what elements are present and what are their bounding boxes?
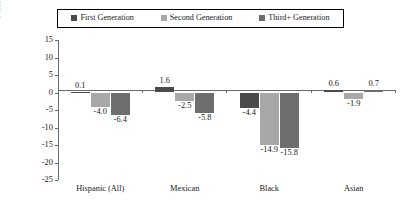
- x-tick: [395, 90, 396, 93]
- bar: [364, 90, 383, 92]
- bar-value-label: 0.1: [63, 82, 97, 90]
- y-tick-label: 0: [49, 88, 53, 96]
- x-axis-category-label: Asian: [312, 185, 397, 193]
- legend-label-second-generation: Second Generation: [170, 14, 233, 22]
- bar-group: 0.1-4.0-6.4Hispanic (All): [58, 40, 143, 180]
- x-axis-category-label: Black: [227, 185, 312, 193]
- bar-chart: First Generation Second Generation Third…: [0, 0, 411, 209]
- bar: [280, 93, 299, 148]
- bar-value-label: -15.8: [272, 149, 306, 157]
- x-axis-category-label: Mexican: [143, 185, 228, 193]
- y-tick-label: -20: [42, 158, 53, 166]
- bar-group: 1.6-2.5-5.8Mexican: [143, 40, 228, 180]
- y-tick-label: -10: [42, 123, 53, 131]
- y-tick: [55, 180, 58, 181]
- bar-value-label: 0.6: [317, 80, 351, 88]
- bar: [240, 93, 259, 108]
- y-axis-title: Percentage Point Differential: [0, 0, 2, 40]
- bar: [71, 92, 90, 93]
- chart-legend: First Generation Second Generation Third…: [57, 9, 344, 28]
- bar-value-label: -1.9: [337, 100, 371, 108]
- bar-value-label: 1.6: [148, 77, 182, 85]
- legend-item-first-generation: First Generation: [71, 14, 133, 22]
- bar: [111, 93, 130, 115]
- plot-area: 151050-5-10-15-20-25 0.1-4.0-6.4Hispanic…: [58, 40, 396, 180]
- bar: [324, 90, 343, 92]
- y-tick-label: -5: [46, 106, 53, 114]
- bar: [175, 93, 194, 102]
- y-tick-label: -25: [42, 176, 53, 184]
- bar-group: 0.6-1.90.7Asian: [312, 40, 397, 180]
- bar: [195, 93, 214, 113]
- bar-value-label: -6.4: [103, 116, 137, 124]
- legend-label-third-generation: Third+ Generation: [268, 14, 329, 22]
- y-tick-label: 15: [45, 36, 53, 44]
- legend-label-first-generation: First Generation: [80, 14, 133, 22]
- x-axis-category-label: Hispanic (All): [58, 185, 143, 193]
- legend-item-third-generation: Third+ Generation: [259, 14, 329, 22]
- legend-swatch-first-generation: [71, 15, 77, 21]
- bar: [91, 93, 110, 107]
- bar-value-label: -5.8: [188, 114, 222, 122]
- legend-swatch-second-generation: [161, 15, 167, 21]
- y-tick-label: 10: [45, 53, 53, 61]
- y-tick-label: -15: [42, 141, 53, 149]
- bar: [260, 93, 279, 145]
- bar: [344, 93, 363, 100]
- bar-value-label: 0.7: [357, 80, 391, 88]
- legend-swatch-third-generation: [259, 15, 265, 21]
- bar-group: -4.4-14.9-15.8Black: [227, 40, 312, 180]
- legend-item-second-generation: Second Generation: [161, 14, 233, 22]
- bar: [155, 87, 174, 93]
- y-tick-label: 5: [49, 71, 53, 79]
